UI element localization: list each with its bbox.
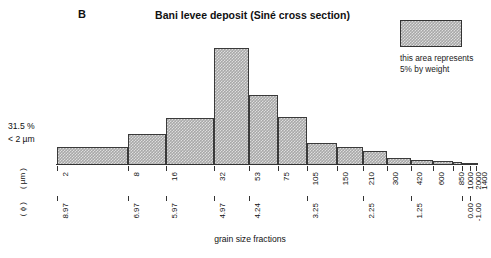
x-tick-mark-um (57, 166, 58, 171)
histogram-bar (278, 117, 307, 165)
clay-fraction-size: < 2 µm (8, 133, 56, 146)
x-tick-mark-um (128, 166, 129, 171)
histogram-bar (249, 95, 278, 165)
histogram-plot-area (56, 36, 472, 165)
x-tick-mark-phi (166, 196, 167, 201)
clay-fraction-percent: 31.5 % (8, 120, 56, 133)
x-tick-mark-um (462, 166, 463, 171)
x-tick-mark-um (470, 166, 471, 171)
x-tick-label-phi: 1.25 (415, 203, 424, 219)
x-tick-mark-um (166, 166, 167, 171)
x-tick-mark-phi (411, 196, 412, 201)
x-tick-label-um: 850 (457, 172, 466, 185)
x-tick-label-um: 105 (311, 172, 320, 185)
x-axis-baseline (56, 164, 472, 165)
x-tick-label-um: 53 (253, 172, 262, 181)
x-tick-mark-phi (57, 196, 58, 201)
axis-caption-phi: ( ɸ ) (18, 202, 27, 216)
x-tick-label-phi: 2.25 (367, 203, 376, 219)
x-tick-mark-um (249, 166, 250, 171)
x-tick-mark-phi (470, 196, 471, 201)
x-tick-mark-um (476, 166, 477, 171)
x-tick-label-phi: 3.25 (311, 203, 320, 219)
histogram-bar (476, 163, 478, 165)
x-tick-label-um: 300 (391, 172, 400, 185)
x-tick-mark-um (453, 166, 454, 171)
histogram-bar (57, 147, 128, 165)
figure-panel: B Bani levee deposit (Siné cross section… (0, 0, 491, 258)
x-tick-mark-phi (462, 196, 463, 201)
x-tick-label-phi: 6.97 (132, 203, 141, 219)
x-tick-mark-phi (307, 196, 308, 201)
x-tick-mark-phi (214, 196, 215, 201)
x-axis-title: grain size fractions (170, 234, 330, 244)
x-tick-mark-um (214, 166, 215, 171)
axis-caption-micrometre: ( µm ) (18, 168, 27, 189)
x-tick-label-phi: 8.97 (61, 203, 70, 219)
x-tick-mark-um (278, 166, 279, 171)
x-tick-label-um: 16 (170, 172, 179, 181)
x-tick-label-phi: 5.97 (170, 203, 179, 219)
chart-title: Bani levee deposit (Siné cross section) (140, 9, 365, 21)
x-tick-label-um: 32 (218, 172, 227, 181)
x-tick-label-um: 2000 (474, 172, 483, 190)
x-tick-label-um: 75 (282, 172, 291, 181)
histogram-bar (214, 48, 249, 165)
x-tick-label-um: 420 (415, 172, 424, 185)
x-tick-label-phi: -1.00 (474, 203, 483, 221)
histogram-bar (128, 134, 166, 165)
x-tick-mark-um (433, 166, 434, 171)
x-tick-mark-um (363, 166, 364, 171)
histogram-bar (363, 151, 387, 165)
histogram-bar (307, 143, 337, 165)
x-tick-mark-phi (128, 196, 129, 201)
histogram-bar (337, 147, 363, 165)
x-tick-mark-phi (249, 196, 250, 201)
x-tick-mark-phi (363, 196, 364, 201)
x-tick-label-phi: 4.24 (253, 203, 262, 219)
panel-label-b: B (78, 8, 86, 20)
x-tick-label-um: 210 (367, 172, 376, 185)
histogram-bar (166, 118, 214, 165)
x-tick-mark-um (387, 166, 388, 171)
x-tick-mark-um (337, 166, 338, 171)
x-tick-label-phi: 4.97 (218, 203, 227, 219)
x-tick-mark-um (307, 166, 308, 171)
x-tick-label-um: 600 (437, 172, 446, 185)
x-tick-label-um: 8 (132, 172, 141, 176)
x-tick-label-um: 150 (341, 172, 350, 185)
x-tick-label-um: 2 (61, 172, 70, 176)
x-tick-mark-um (411, 166, 412, 171)
clay-fraction-annotation: 31.5 % < 2 µm (8, 120, 56, 146)
